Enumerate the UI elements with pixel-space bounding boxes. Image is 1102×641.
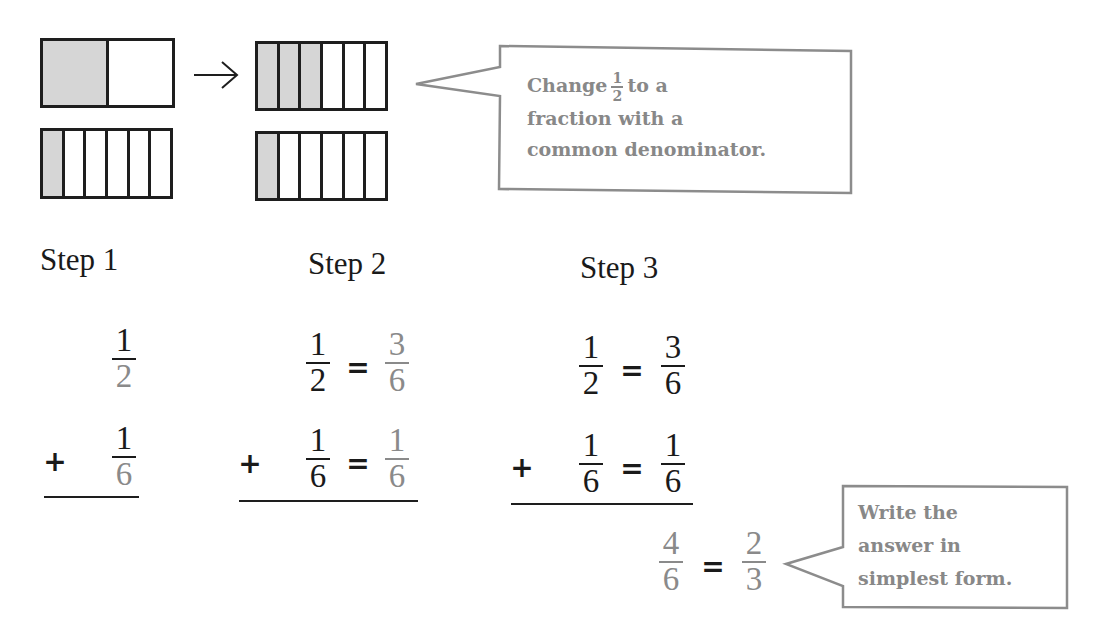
model-cell (320, 44, 342, 108)
step2-plus-sign: + (235, 450, 265, 478)
step3-sum-equals-sign: = (698, 553, 728, 581)
model-cell (342, 134, 364, 198)
model-cell (105, 131, 127, 196)
inline-fraction: 12 (611, 71, 623, 103)
model-cell (363, 44, 385, 108)
model-cell-shaded (258, 134, 277, 198)
step2-fraction-three-sixths: 3 6 (377, 328, 417, 398)
model-one-sixth-converted (255, 131, 388, 201)
step3-equals-sign-2: = (617, 455, 647, 483)
step2-sum-line (239, 500, 418, 502)
model-cell (363, 134, 385, 198)
model-cell (83, 131, 105, 196)
step-2-label: Step 2 (308, 246, 386, 282)
model-cell (277, 134, 299, 198)
step3-fraction-one-half: 1 2 (571, 331, 611, 401)
step2-equals-sign-1: = (343, 354, 373, 382)
step2-fraction-one-sixth: 1 6 (298, 424, 338, 494)
callout-common-denominator: Change12to a fraction with a common deno… (527, 67, 766, 168)
model-cell (298, 134, 320, 198)
model-three-sixths (255, 41, 388, 111)
step3-sum-four-sixths: 4 6 (651, 527, 691, 597)
callout-line-1: Write the (858, 496, 1012, 529)
step3-fraction-one-sixth-equiv: 1 6 (653, 429, 693, 499)
model-one-half (40, 38, 175, 108)
model-cell-shaded (258, 44, 277, 108)
model-cell (148, 131, 170, 196)
arrow-right-icon (192, 60, 242, 90)
callout-line-2: answer in (858, 529, 1012, 562)
step-1-label: Step 1 (40, 242, 118, 278)
step3-fraction-three-sixths: 3 6 (653, 331, 693, 401)
step3-plus-sign: + (507, 454, 537, 482)
step2-fraction-one-sixth-equiv: 1 6 (377, 424, 417, 494)
step1-fraction-one-sixth: 1 6 (104, 422, 144, 492)
model-cell-shaded (298, 44, 320, 108)
step3-fraction-one-sixth: 1 6 (571, 429, 611, 499)
model-cell (62, 131, 84, 196)
callout-simplest-form: Write the answer in simplest form. (858, 496, 1012, 595)
step1-sum-line (44, 496, 139, 498)
model-cell-shaded (43, 41, 106, 105)
model-cell (320, 134, 342, 198)
callout-line-3: common denominator. (527, 131, 766, 168)
callout-line-3: simplest form. (858, 562, 1012, 595)
step-3-label: Step 3 (580, 250, 658, 286)
model-cell-shaded (43, 131, 62, 196)
callout-line-1: Change12to a (527, 67, 766, 104)
step2-fraction-one-half: 1 2 (298, 328, 338, 398)
model-cell-shaded (277, 44, 299, 108)
step1-fraction-one-half: 1 2 (104, 324, 144, 394)
step1-plus-sign: + (40, 448, 70, 476)
model-cell (106, 41, 172, 105)
model-cell (127, 131, 149, 196)
step3-sum-two-thirds: 2 3 (734, 527, 774, 597)
step2-equals-sign-2: = (343, 450, 373, 478)
step3-sum-line (511, 503, 693, 505)
model-one-sixth (40, 128, 173, 199)
step3-equals-sign-1: = (617, 357, 647, 385)
model-cell (342, 44, 364, 108)
